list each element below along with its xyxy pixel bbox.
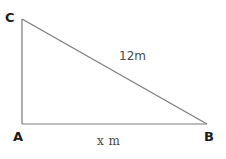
hypotenuse-length-label: 12m — [119, 50, 146, 62]
vertex-label-b: B — [204, 130, 214, 143]
triangle-figure: C A B 12m x m — [0, 0, 226, 159]
triangle-side-hypotenuse-cb — [22, 19, 207, 124]
vertex-label-c: C — [5, 11, 15, 24]
base-length-label: x m — [97, 135, 120, 147]
vertex-label-a: A — [13, 130, 23, 143]
